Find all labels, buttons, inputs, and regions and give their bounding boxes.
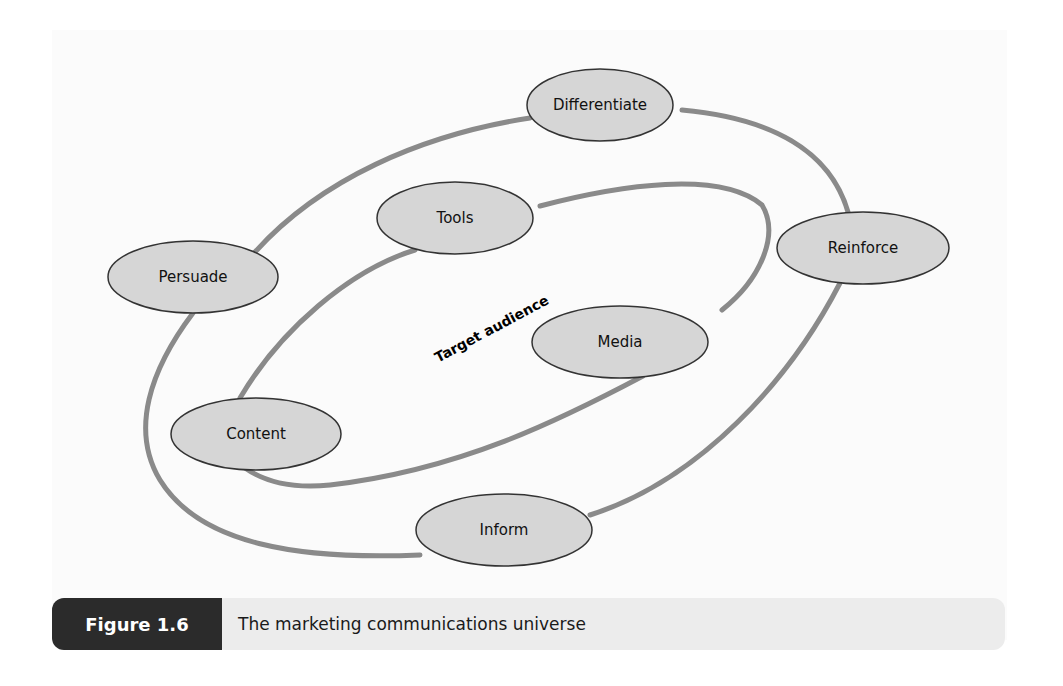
- node-reinforce: Reinforce: [777, 212, 949, 284]
- node-content: Content: [171, 398, 341, 470]
- figure-title: The marketing communications universe: [210, 598, 1005, 650]
- node-label: Tools: [436, 209, 474, 227]
- node-label: Media: [597, 333, 642, 351]
- node-tools: Tools: [377, 182, 533, 254]
- figure-number: Figure 1.6: [52, 598, 222, 650]
- center-label-target-audience: Target audience: [432, 292, 551, 366]
- node-label: Reinforce: [828, 239, 898, 257]
- node-media: Media: [532, 306, 708, 378]
- node-inform: Inform: [416, 494, 592, 566]
- node-label: Inform: [480, 521, 529, 539]
- node-differentiate: Differentiate: [527, 69, 673, 141]
- figure-caption: Figure 1.6 The marketing communications …: [52, 598, 1005, 650]
- node-label: Content: [226, 425, 286, 443]
- marketing-communications-diagram: DifferentiateReinforceInformPersuadeTool…: [0, 0, 1063, 686]
- node-persuade: Persuade: [108, 241, 278, 313]
- node-label: Persuade: [158, 268, 227, 286]
- node-label: Differentiate: [553, 96, 647, 114]
